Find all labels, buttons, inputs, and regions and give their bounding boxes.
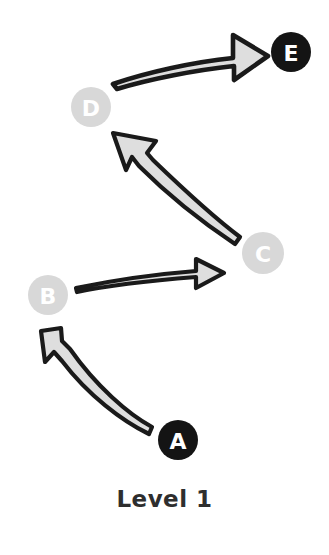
node-b[interactable]: B	[28, 275, 68, 315]
edge-b-to-c-shape	[76, 259, 224, 292]
level-flow-diagram: E D C B A	[0, 0, 329, 555]
node-d[interactable]: D	[71, 87, 111, 127]
edge-c-to-d	[113, 133, 240, 244]
node-c-label: C	[255, 242, 271, 267]
node-e-label: E	[283, 41, 298, 66]
node-c[interactable]: C	[242, 232, 284, 274]
diagram-canvas: E D C B A Level 1	[0, 0, 329, 555]
edge-c-to-d-shape	[113, 133, 240, 244]
edge-a-to-b-shape	[41, 328, 152, 434]
edge-d-to-e-shape	[113, 35, 268, 89]
edge-b-to-c	[76, 259, 224, 292]
node-a-label: A	[169, 429, 186, 454]
node-d-label: D	[82, 96, 100, 121]
diagram-caption: Level 1	[0, 486, 329, 512]
node-b-label: B	[40, 284, 57, 309]
edge-d-to-e	[113, 35, 268, 89]
node-a[interactable]: A	[158, 420, 198, 460]
node-e[interactable]: E	[271, 32, 311, 72]
edge-a-to-b	[41, 328, 152, 434]
